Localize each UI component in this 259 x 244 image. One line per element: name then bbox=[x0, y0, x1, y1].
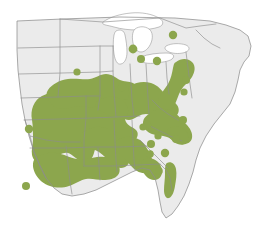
dot-carolina-outlier-3 bbox=[146, 150, 154, 158]
dot-pennsylvania-outlier bbox=[182, 76, 190, 84]
dot-appalachian-outlier bbox=[139, 123, 146, 130]
dot-sc-coastal-outlier bbox=[179, 116, 187, 124]
range-map-figure bbox=[0, 0, 259, 244]
dot-georgia-outlier-1 bbox=[154, 132, 161, 139]
dot-southwest-texas-outlier bbox=[22, 182, 30, 190]
dot-missouri-outlier bbox=[118, 83, 126, 91]
dot-iowa-outlier bbox=[73, 68, 80, 75]
dot-ohio-outlier bbox=[153, 57, 161, 65]
dot-ontario-ny-outlier bbox=[169, 31, 177, 39]
map-canvas bbox=[0, 0, 259, 244]
lake-michigan bbox=[113, 30, 127, 64]
dot-carolina-outlier-1 bbox=[147, 140, 155, 148]
dot-michigan-lower-outlier bbox=[129, 45, 138, 54]
lake-ontario bbox=[165, 44, 189, 54]
dot-carolina-outlier-2 bbox=[161, 149, 169, 157]
dot-indiana-ohio-outlier bbox=[137, 55, 145, 63]
dot-ga-coastal-outlier bbox=[155, 167, 163, 175]
dot-west-texas-outlier bbox=[25, 125, 33, 133]
dot-ky-tn-outlier bbox=[180, 88, 187, 95]
dot-georgia-outlier-2 bbox=[172, 135, 180, 143]
